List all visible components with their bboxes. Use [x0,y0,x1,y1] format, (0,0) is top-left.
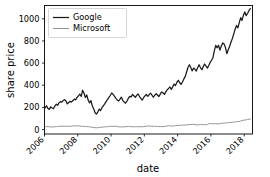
y-tick-label: 1000 [19,14,40,24]
y-tick-label: 600 [24,58,40,68]
chart-figure: 02004006008001000 2006200820102012201420… [0,0,270,177]
y-tick-label: 200 [24,102,40,112]
chart-svg: 02004006008001000 2006200820102012201420… [0,0,270,177]
legend-label-google: Google [73,12,102,22]
x-axis-label: date [137,163,160,174]
y-tick-label: 400 [24,80,40,90]
legend-label-microsoft: Microsoft [73,23,111,33]
y-tick-label: 0 [34,125,39,135]
chart-legend: Google Microsoft [49,9,127,38]
y-tick-label: 800 [24,36,40,46]
y-axis-label: share price [5,42,16,98]
